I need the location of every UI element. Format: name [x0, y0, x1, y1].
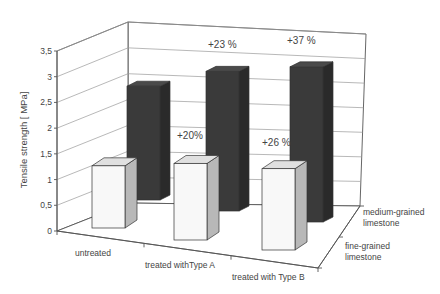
category-label: treated with Type B — [232, 272, 305, 282]
percent-annotation: +23 % — [208, 39, 237, 50]
series-label: limestone — [345, 252, 382, 262]
series-label: fine-grained — [345, 241, 390, 251]
y-tick-label: 3 — [47, 72, 52, 82]
percent-annotation: +20% — [177, 130, 203, 141]
y-axis-label: Tensile strength [ MPa] — [18, 92, 29, 189]
y-tick-label: 3,5 — [40, 46, 52, 56]
series-label: medium-grained — [363, 207, 425, 217]
category-label: untreated — [75, 248, 111, 258]
tensile-strength-3d-bar-chart: +23 %+37 %+20%+26 % 00,511,522,533,5untr… — [0, 0, 440, 294]
percent-annotation: +26 % — [262, 137, 291, 148]
y-tick-label: 1 — [47, 175, 52, 185]
bar — [262, 161, 307, 250]
category-label: treated withType A — [145, 260, 215, 270]
y-tick-label: 2 — [47, 123, 52, 133]
bar — [92, 158, 137, 228]
y-tick-label: 2,5 — [40, 97, 52, 107]
y-tick-label: 0 — [47, 226, 52, 236]
series-label: limestone — [363, 218, 400, 228]
bar — [174, 155, 219, 240]
y-tick-label: 1,5 — [40, 149, 52, 159]
y-tick-label: 0,5 — [40, 200, 52, 210]
percent-annotation: +37 % — [287, 35, 316, 46]
